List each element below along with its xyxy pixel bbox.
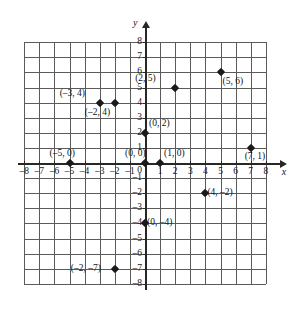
axes	[0, 0, 307, 309]
y-axis-arrowhead-icon	[142, 21, 150, 28]
x-axis-arrowhead-icon	[280, 160, 287, 168]
y-axis	[145, 28, 147, 290]
x-axis	[18, 163, 280, 165]
coordinate-plane-figure: xy–8–7–6–5–4–3–2–11234567887654321–1–2–3…	[0, 0, 307, 309]
